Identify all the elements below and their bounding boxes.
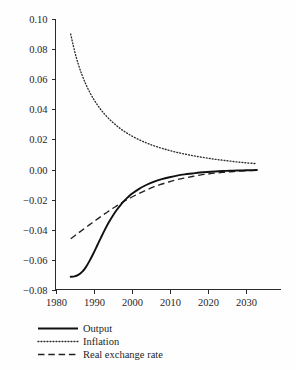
x-tick-label: 2030 xyxy=(236,297,257,308)
y-tick-label: 0.00 xyxy=(29,165,47,176)
y-tick-label: 0.08 xyxy=(29,44,47,55)
x-tick-label: 1990 xyxy=(84,297,105,308)
x-tick-label: 1980 xyxy=(46,297,67,308)
y-tick-label: 0.06 xyxy=(29,74,47,85)
legend-label-output: Output xyxy=(83,323,112,334)
x-tick-label: 2020 xyxy=(198,297,219,308)
x-tick-label: 2000 xyxy=(122,297,143,308)
y-tick-label: 0.04 xyxy=(29,104,48,115)
y-tick-label: −0.06 xyxy=(23,255,47,266)
x-tick-label: 2010 xyxy=(160,297,181,308)
y-tick-label: −0.02 xyxy=(23,195,47,206)
y-tick-label: −0.08 xyxy=(23,285,47,296)
y-tick-label: 0.02 xyxy=(29,134,47,145)
legend-label-real-exchange-rate: Real exchange rate xyxy=(83,349,163,360)
line-chart: 0.100.080.060.040.020.00−0.02−0.04−0.06−… xyxy=(0,0,296,370)
y-tick-label: 0.10 xyxy=(29,14,47,25)
legend-label-inflation: Inflation xyxy=(83,336,120,347)
chart-figure: 0.100.080.060.040.020.00−0.02−0.04−0.06−… xyxy=(0,0,296,370)
y-tick-label: −0.04 xyxy=(23,225,48,236)
